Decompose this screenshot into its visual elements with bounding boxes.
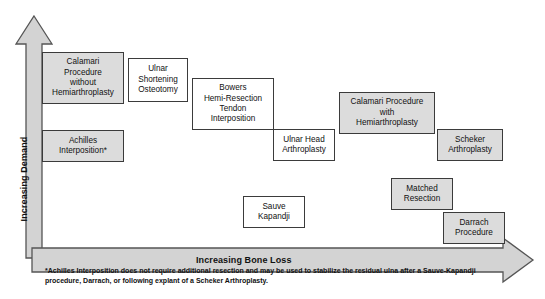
procedure-box-sauve-kapandji[interactable]: Sauve Kapandji <box>243 196 305 228</box>
procedure-box-bowers-hemi-resection-tendon-interposition[interactable]: Bowers Hemi-Resection Tendon Interpositi… <box>192 78 274 130</box>
procedure-label: Darrach Procedure <box>455 218 493 239</box>
procedure-label: Matched Resection <box>404 184 440 205</box>
procedure-label: Ulnar Shortening Osteotomy <box>138 64 178 95</box>
procedure-label: Calamari Procedure without Hemiarthropla… <box>52 57 114 99</box>
procedure-label: Ulnar Head Arthroplasty <box>282 135 326 156</box>
procedure-label: Calamari Procedure with Hemiarthroplasty <box>351 97 424 128</box>
y-axis-label: Increasing Demand <box>19 114 29 244</box>
procedure-box-achilles-interposition[interactable]: Achilles Interposition* <box>42 130 124 162</box>
procedure-box-calamari-without-hemiarthroplasty[interactable]: Calamari Procedure without Hemiarthropla… <box>42 52 124 104</box>
x-axis-label: Increasing Bone Loss <box>196 255 292 265</box>
procedure-box-matched-resection[interactable]: Matched Resection <box>391 178 453 210</box>
procedure-box-scheker-arthroplasty[interactable]: Scheker Arthroplasty <box>437 129 503 161</box>
procedure-label: Scheker Arthroplasty <box>448 135 492 156</box>
procedure-box-ulnar-shortening-osteotomy[interactable]: Ulnar Shortening Osteotomy <box>128 58 188 102</box>
procedure-box-ulnar-head-arthroplasty[interactable]: Ulnar Head Arthroplasty <box>273 129 335 161</box>
procedure-label: Bowers Hemi-Resection Tendon Interpositi… <box>204 83 262 125</box>
procedure-label: Achilles Interposition* <box>59 136 107 157</box>
procedure-label: Sauve Kapandji <box>258 202 290 223</box>
footnote-text: *Achilles Interposition does not require… <box>45 266 515 285</box>
procedure-box-calamari-with-hemiarthroplasty[interactable]: Calamari Procedure with Hemiarthroplasty <box>339 92 435 134</box>
procedure-spectrum-diagram: Increasing Demand Increasing Bone Loss C… <box>0 0 545 299</box>
procedure-box-darrach-procedure[interactable]: Darrach Procedure <box>443 212 505 244</box>
